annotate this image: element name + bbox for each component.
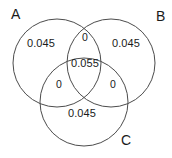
region-value-a-only: 0.045 [27, 38, 55, 49]
region-value-a-and-b: 0 [82, 32, 88, 43]
venn-diagram: A B C 0.045 0.045 0.045 0 0 0 0.055 [0, 0, 172, 158]
circle-set-c [40, 58, 128, 146]
set-label-a: A [11, 7, 21, 21]
region-value-b-and-c: 0 [110, 79, 116, 90]
venn-circles-group [0, 0, 172, 158]
set-label-c: C [121, 133, 131, 147]
region-value-a-and-c: 0 [56, 79, 62, 90]
region-value-b-only: 0.045 [112, 38, 140, 49]
region-value-a-and-b-and-c: 0.055 [71, 58, 99, 69]
region-value-c-only: 0.045 [68, 108, 96, 119]
set-label-b: B [156, 9, 166, 23]
